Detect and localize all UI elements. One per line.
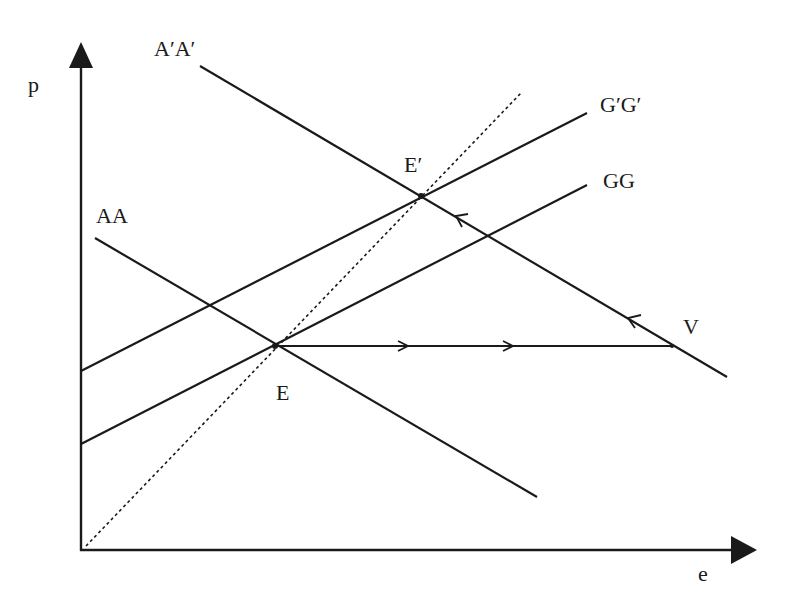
curve-g-prime-g-prime	[81, 113, 587, 371]
label-g-prime-g-prime: G′G′	[600, 92, 641, 117]
curve-a-prime-a-prime	[200, 66, 727, 377]
label-gg: GG	[603, 168, 635, 193]
label-aa: AA	[96, 203, 128, 228]
x-axis-label: e	[698, 561, 708, 586]
label-point-e: E	[276, 380, 289, 405]
x-axis-arrow-icon	[731, 536, 757, 564]
axes: p e	[28, 42, 757, 586]
economic-diagram: p e A′A′ AA G′G′ GG E E′ V	[0, 0, 787, 614]
label-point-v: V	[683, 314, 699, 339]
y-axis-arrow-icon	[69, 42, 93, 68]
point-e-marker	[272, 343, 278, 349]
y-axis-label: p	[28, 72, 39, 97]
curve-gg	[81, 185, 587, 444]
label-point-e-prime: E′	[404, 152, 422, 177]
label-a-prime-a-prime: A′A′	[154, 36, 195, 61]
point-e-prime-marker	[418, 193, 424, 199]
point-v-marker	[670, 344, 674, 348]
curve-aa	[95, 238, 537, 497]
forty-five-degree-line	[86, 93, 521, 546]
